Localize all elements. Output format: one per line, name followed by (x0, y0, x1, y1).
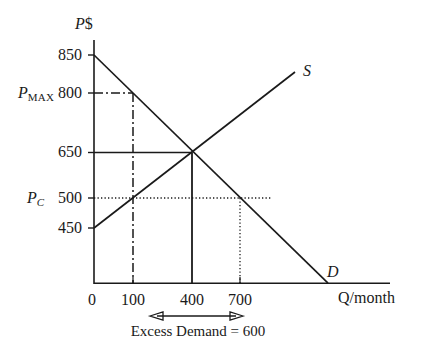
p-max-symbol: P (18, 84, 28, 101)
x-tick-label-400: 400 (169, 292, 215, 308)
y-axis-title: P$ (75, 16, 93, 32)
p-max-label: PMAX (18, 85, 54, 101)
p-c-label: PC (27, 190, 44, 206)
supply-curve (94, 72, 295, 228)
y-tick-label-500: 500 (38, 190, 82, 206)
supply-curve-label: S (303, 63, 311, 79)
y-axis-title-unit: $ (85, 15, 93, 32)
y-tick-label-850: 850 (38, 47, 82, 63)
y-tick-label-650: 650 (38, 144, 82, 160)
demand-curve-label: D (327, 264, 339, 280)
supply-demand-chart: P$ Q/month 850 800 650 500 450 0 100 400… (0, 0, 425, 356)
x-tick-label-700: 700 (217, 292, 263, 308)
y-axis-title-symbol: P (75, 15, 85, 32)
x-tick-label-0: 0 (69, 292, 115, 308)
p-c-subscript: C (37, 196, 44, 208)
excess-demand-label: Excess Demand = 600 (118, 324, 278, 339)
y-tick-label-450: 450 (38, 220, 82, 236)
x-tick-label-100: 100 (110, 292, 156, 308)
x-axis-title: Q/month (338, 290, 395, 306)
p-max-subscript: MAX (28, 91, 54, 103)
p-c-symbol: P (27, 189, 37, 206)
demand-curve (94, 55, 328, 283)
